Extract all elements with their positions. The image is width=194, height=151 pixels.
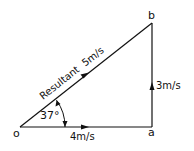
point-a-label: a bbox=[148, 126, 155, 139]
vector-oa-label: 4m/s bbox=[70, 131, 95, 142]
vector-diagram: 37° o a b 4m/s 3m/s Resultant 5m/s bbox=[0, 0, 194, 151]
arrowhead-oa-icon bbox=[81, 125, 89, 130]
point-o-label: o bbox=[13, 127, 20, 140]
angle-arrow-bottom-icon bbox=[63, 121, 68, 127]
vector-ob-label: Resultant 5m/s bbox=[37, 44, 105, 101]
vector-ab-label: 3m/s bbox=[156, 80, 181, 91]
point-b-label: b bbox=[148, 9, 155, 22]
angle-label: 37° bbox=[40, 109, 60, 122]
arrowhead-ab-icon bbox=[150, 82, 155, 90]
